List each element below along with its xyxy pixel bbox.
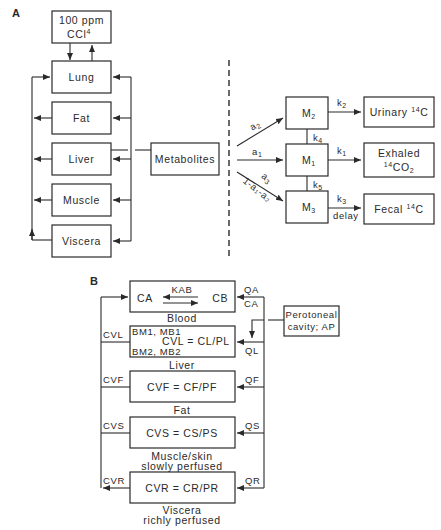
svg-text:Liver: Liver xyxy=(69,153,95,165)
svg-text:cavity; AP: cavity; AP xyxy=(288,321,336,332)
svg-text:CVF = CF/PF: CVF = CF/PF xyxy=(147,381,217,393)
pbpk-diagram: A 100 ppm CCl4 Lung Fat Liver Muscle Vis… xyxy=(0,0,441,530)
svg-text:KAB: KAB xyxy=(172,284,193,295)
compartment-liver: Liver xyxy=(52,143,111,175)
rate-k1-label: k1 xyxy=(337,145,347,157)
rate-k5-label: k5 xyxy=(313,179,323,191)
muscle-box: CVS = CS/PS xyxy=(130,417,235,448)
liver-box: BM1, MB1 CVL = CL/PL BM2, MB2 xyxy=(130,326,235,357)
label-ca: CA xyxy=(244,298,258,309)
label-qa: QA xyxy=(244,284,259,295)
label-cvf: CVF xyxy=(103,374,124,385)
pool-m3: M3 xyxy=(286,191,328,223)
label-ql: QL xyxy=(245,345,259,356)
blood-box: CA CB KAB xyxy=(130,281,235,312)
svg-text:Exhaled: Exhaled xyxy=(378,147,420,159)
compartment-lung: Lung xyxy=(52,61,111,93)
svg-text:Urinary 14C: Urinary 14C xyxy=(370,106,429,118)
compartment-fat: Fat xyxy=(52,102,111,134)
compartment-muscle: Muscle xyxy=(52,184,111,216)
svg-text:CA: CA xyxy=(137,292,153,304)
output-urinary: Urinary 14C xyxy=(364,97,434,127)
label-qr: QR xyxy=(245,475,260,486)
peritoneal-cavity-box: Perotoneal cavity; AP xyxy=(284,306,339,336)
fat-caption: Fat xyxy=(174,404,191,416)
panel-a-label: A xyxy=(12,7,21,19)
svg-text:Perotoneal: Perotoneal xyxy=(286,309,338,320)
rate-k2-label: k2 xyxy=(337,97,347,109)
viscera-caption-2: richly perfused xyxy=(143,514,220,526)
venous-return-lines xyxy=(32,77,52,240)
rate-k3-label: k3 xyxy=(337,193,347,205)
blood-caption: Blood xyxy=(167,312,197,324)
fraction-a3-label: a3 xyxy=(259,170,275,186)
output-exhaled: Exhaled 14CO2 xyxy=(364,143,434,177)
output-fecal: Fecal 14C xyxy=(364,194,434,224)
svg-text:100 ppm: 100 ppm xyxy=(59,14,104,26)
muscle-caption-2: slowly perfused xyxy=(141,460,222,472)
fraction-a2-label: a2 xyxy=(247,118,262,134)
svg-text:Viscera: Viscera xyxy=(62,235,101,247)
svg-text:CB: CB xyxy=(212,292,228,304)
label-cvr: CVR xyxy=(103,475,125,486)
exposure-box: 100 ppm CCl4 xyxy=(52,11,111,43)
label-cvl: CVL xyxy=(103,329,123,340)
label-cvs: CVS xyxy=(103,420,124,431)
svg-text:Fecal 14C: Fecal 14C xyxy=(374,203,423,215)
pool-m2: M2 xyxy=(286,97,328,129)
delay-label: delay xyxy=(333,210,359,221)
svg-text:Lung: Lung xyxy=(69,71,95,83)
metabolites-box: Metabolites xyxy=(151,143,219,175)
svg-text:Metabolites: Metabolites xyxy=(155,153,215,165)
label-qs: QS xyxy=(245,420,260,431)
arterial-supply-lines xyxy=(113,77,131,241)
label-qf: QF xyxy=(245,374,259,385)
fraction-a1-label: a1 xyxy=(252,146,262,158)
venous-return-lines-b xyxy=(101,297,130,488)
svg-text:CVR = CR/PR: CVR = CR/PR xyxy=(145,482,218,494)
pool-m1: M1 xyxy=(286,144,328,176)
panel-b-label: B xyxy=(90,275,99,287)
svg-text:CVS = CS/PS: CVS = CS/PS xyxy=(146,427,218,439)
viscera-box: CVR = CR/PR xyxy=(130,472,235,503)
svg-text:BM2, MB2: BM2, MB2 xyxy=(132,346,181,357)
svg-text:Muscle: Muscle xyxy=(63,194,100,206)
rate-k4-label: k4 xyxy=(313,132,323,144)
compartment-viscera: Viscera xyxy=(52,225,111,257)
fraction-a2-arrow xyxy=(237,118,283,146)
peritoneal-dose-arrow xyxy=(252,320,264,338)
fat-box: CVF = CF/PF xyxy=(130,371,235,402)
arterial-supply-lines-b xyxy=(237,297,264,488)
liver-caption: Liver xyxy=(169,359,195,371)
svg-text:Fat: Fat xyxy=(73,112,90,124)
